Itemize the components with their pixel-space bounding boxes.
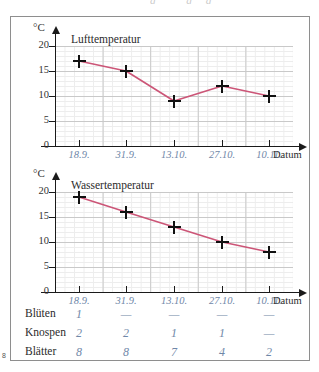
cell-knospen-3: 1	[154, 326, 194, 341]
y-tick-10	[49, 96, 56, 97]
row-label-blatter: Blätter	[25, 345, 56, 357]
cell-blatter-3: 7	[154, 345, 194, 360]
y-tick-0	[49, 292, 56, 293]
chart-wassertemperatur: °C Wassertemperatur 0 5 10 15 20 18.9.	[11, 165, 311, 305]
cell-blatter-5: 2	[249, 345, 289, 360]
y-tick-20	[49, 46, 56, 47]
x-tick-2	[126, 286, 127, 293]
x-tick-label-4: 27.10.	[209, 295, 235, 306]
y-tick-5	[49, 267, 56, 268]
cell-blatter-1: 8	[59, 345, 99, 360]
y-tick-label-15: 15	[27, 210, 49, 221]
plot-area-wassertemperatur	[55, 192, 293, 292]
x-tick-4	[222, 286, 223, 293]
worksheet-page: g gg °C Lufttemperatur 0 5 10 15 20	[0, 0, 319, 372]
data-point-marker	[73, 191, 86, 204]
data-point-marker	[263, 246, 276, 259]
cut-off-text-above: g gg	[150, 0, 270, 4]
y-tick-label-5: 5	[27, 114, 49, 125]
chart-title-lufttemperatur: Lufttemperatur	[71, 33, 141, 45]
x-tick-2	[126, 140, 127, 147]
table-row: Blüten 1 — — — —	[11, 306, 311, 325]
page-number-marker: 8	[2, 352, 6, 359]
cell-bluten-1: 1	[59, 307, 99, 322]
cell-blatter-2: 8	[106, 345, 146, 360]
y-tick-10	[49, 242, 56, 243]
y-tick-label-20: 20	[27, 185, 49, 196]
y-tick-5	[49, 121, 56, 122]
y-tick-label-15: 15	[27, 64, 49, 75]
data-point-marker	[120, 206, 133, 219]
cell-knospen-1: 2	[59, 326, 99, 341]
y-tick-label-10: 10	[27, 89, 49, 100]
y-tick-label-5: 5	[27, 260, 49, 271]
y-axis-unit-label: °C	[33, 21, 45, 33]
cell-blatter-4: 4	[202, 345, 242, 360]
y-tick-label-0: 0	[27, 139, 49, 150]
y-tick-15	[49, 217, 56, 218]
x-tick-3	[174, 286, 175, 293]
x-tick-label-1: 18.9.	[69, 149, 90, 160]
x-tick-label-2: 31.9.	[116, 149, 137, 160]
y-axis-unit-label: °C	[33, 167, 45, 179]
data-point-marker	[216, 236, 229, 249]
chart-title-wassertemperatur: Wassertemperatur	[71, 179, 154, 191]
table-row: Knospen 2 2 1 1 —	[11, 325, 311, 344]
y-tick-15	[49, 71, 56, 72]
x-axis-line	[41, 292, 305, 293]
y-tick-label-20: 20	[27, 39, 49, 50]
y-tick-label-10: 10	[27, 235, 49, 246]
x-tick-label-2: 31.9.	[116, 295, 137, 306]
x-axis-line	[41, 146, 305, 147]
cell-bluten-5: —	[249, 307, 289, 322]
x-tick-label-1: 18.9.	[69, 295, 90, 306]
x-tick-label-3: 13.10.	[161, 295, 187, 306]
x-tick-3	[174, 140, 175, 147]
x-tick-label-4: 27.10.	[209, 149, 235, 160]
cell-bluten-3: —	[154, 307, 194, 322]
chart-lufttemperatur: °C Lufttemperatur 0 5 10 15 20	[11, 19, 311, 167]
x-axis-name-datum: Datum	[273, 295, 302, 306]
x-tick-1	[79, 286, 80, 293]
x-tick-5	[269, 286, 270, 293]
data-point-marker	[168, 221, 181, 234]
x-tick-5	[269, 140, 270, 147]
data-point-marker	[168, 95, 181, 108]
data-point-marker	[120, 65, 133, 78]
data-point-marker	[216, 80, 229, 93]
x-tick-label-3: 13.10.	[161, 149, 187, 160]
cell-knospen-2: 2	[106, 326, 146, 341]
cell-knospen-5: —	[249, 326, 289, 341]
x-axis-name-datum: Datum	[273, 149, 302, 160]
x-tick-1	[79, 140, 80, 147]
y-tick-label-0: 0	[27, 285, 49, 296]
x-tick-4	[222, 140, 223, 147]
observation-table: Blüten 1 — — — — Knospen 2 2 1 1 — Blätt…	[11, 306, 311, 363]
data-point-marker	[73, 55, 86, 68]
y-axis-line	[55, 179, 56, 293]
data-point-marker	[263, 90, 276, 103]
cell-knospen-4: 1	[202, 326, 242, 341]
y-tick-20	[49, 192, 56, 193]
y-tick-0	[49, 146, 56, 147]
cell-bluten-2: —	[106, 307, 146, 322]
y-axis-line	[55, 33, 56, 147]
cell-bluten-4: —	[202, 307, 242, 322]
plot-grid	[55, 192, 293, 292]
table-row: Blätter 8 8 7 4 2	[11, 344, 311, 363]
content-frame: °C Lufttemperatur 0 5 10 15 20	[10, 16, 310, 361]
row-label-bluten: Blüten	[25, 307, 56, 319]
